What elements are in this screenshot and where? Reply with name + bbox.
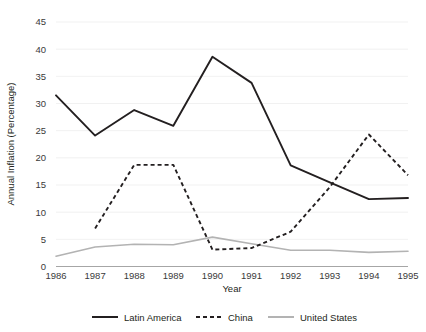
y-tick-label: 35 (35, 71, 46, 82)
x-tick-label: 1991 (241, 270, 262, 281)
y-tick-label: 10 (35, 207, 46, 218)
legend-label-latin-america: Latin America (124, 312, 182, 323)
x-tick-label: 1986 (45, 270, 66, 281)
x-axis-title: Year (222, 283, 241, 294)
x-tick-label: 1995 (397, 270, 418, 281)
x-tick-label: 1989 (163, 270, 184, 281)
x-tick-label: 1992 (280, 270, 301, 281)
x-tick-label: 1990 (202, 270, 223, 281)
y-tick-label: 45 (35, 16, 46, 27)
x-tick-label: 1988 (124, 270, 145, 281)
y-tick-label: 15 (35, 179, 46, 190)
legend-label-united-states: United States (300, 312, 357, 323)
legend-label-china: China (228, 312, 254, 323)
y-tick-label: 40 (35, 44, 46, 55)
chart-background (0, 0, 426, 332)
y-axis-title: Annual Inflation (Percentage) (5, 82, 16, 205)
y-tick-label: 20 (35, 152, 46, 163)
x-tick-label: 1994 (358, 270, 379, 281)
y-tick-label: 25 (35, 125, 46, 136)
x-tick-label: 1993 (319, 270, 340, 281)
inflation-line-chart: 051015202530354045 198619871988198919901… (0, 0, 426, 332)
x-tick-label: 1987 (85, 270, 106, 281)
y-tick-label: 30 (35, 98, 46, 109)
y-tick-label: 5 (41, 234, 46, 245)
